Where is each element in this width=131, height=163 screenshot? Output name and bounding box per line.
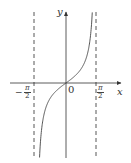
pi-half-label: π 2 xyxy=(97,85,104,100)
pi-half-den: 2 xyxy=(97,93,104,100)
neg-pi-half-sign: − xyxy=(15,87,23,97)
neg-pi-half-den: 2 xyxy=(24,93,31,100)
x-axis-label: x xyxy=(117,86,123,97)
origin-label: 0 xyxy=(68,84,74,95)
neg-pi-half-label: π 2 xyxy=(24,85,31,100)
tan-graph xyxy=(0,0,131,163)
y-axis-label: y xyxy=(57,6,63,17)
